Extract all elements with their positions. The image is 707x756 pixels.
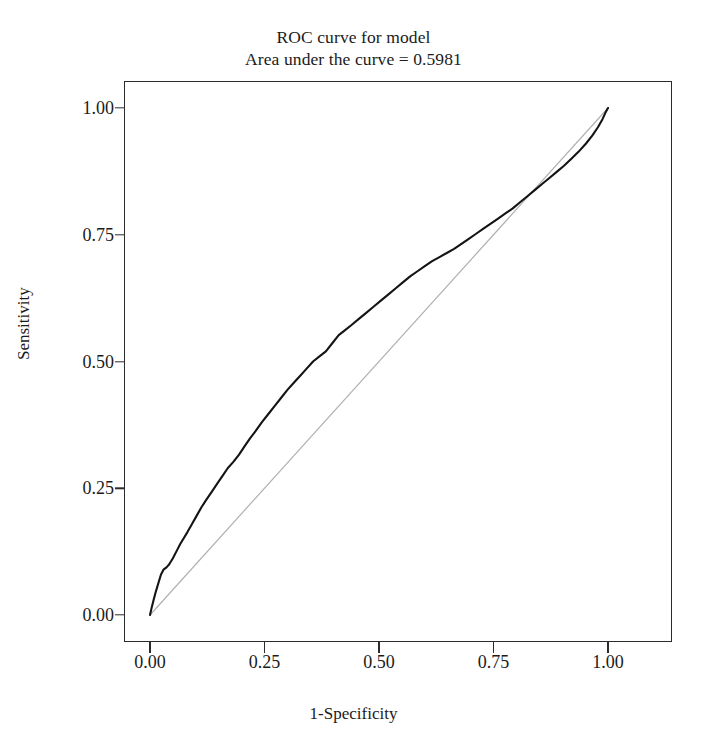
y-tick-mark-0.25 — [115, 488, 125, 489]
reference-diagonal-line — [150, 108, 608, 615]
y-tick-label-0.00: 0.00 — [48, 605, 114, 626]
y-tick-mark-1.00 — [115, 107, 125, 108]
y-tick-label-0.75: 0.75 — [48, 224, 114, 245]
y-tick-label-0.25: 0.25 — [48, 478, 114, 499]
y-tick-label-1.00: 1.00 — [48, 98, 114, 119]
y-tick-label-0.50: 0.50 — [48, 351, 114, 372]
x-tick-label-0.75: 0.75 — [454, 652, 534, 673]
plot-canvas — [124, 81, 672, 642]
y-tick-mark-0.75 — [115, 234, 125, 235]
x-tick-label-0.50: 0.50 — [339, 652, 419, 673]
x-axis-title: 1-Specificity — [0, 704, 707, 724]
x-tick-label-1.00: 1.00 — [568, 652, 648, 673]
roc-chart-figure: ROC curve for model Area under the curve… — [0, 0, 707, 756]
y-axis-tick-labels: 0.000.250.500.751.00 — [34, 0, 114, 756]
x-tick-label-0.25: 0.25 — [225, 652, 305, 673]
x-tick-label-0.00: 0.00 — [110, 652, 190, 673]
y-tick-mark-0.00 — [115, 614, 125, 615]
y-tick-mark-0.50 — [115, 361, 125, 362]
y-axis-title: Sensitivity — [14, 287, 34, 360]
